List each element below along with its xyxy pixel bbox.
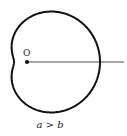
limacon-diagram [0,0,127,136]
pole-point [25,60,29,64]
origin-label: O [23,48,30,58]
caption: a > b [0,119,100,130]
